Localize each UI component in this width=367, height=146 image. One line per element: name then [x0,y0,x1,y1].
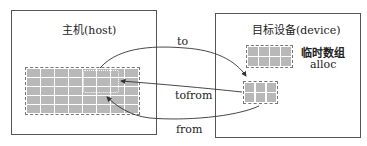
arrow-to [100,47,246,76]
arrow-from-label: from [176,123,202,136]
arrow-to-label: to [177,35,188,48]
arrow-tofrom-label: tofrom [175,89,212,102]
